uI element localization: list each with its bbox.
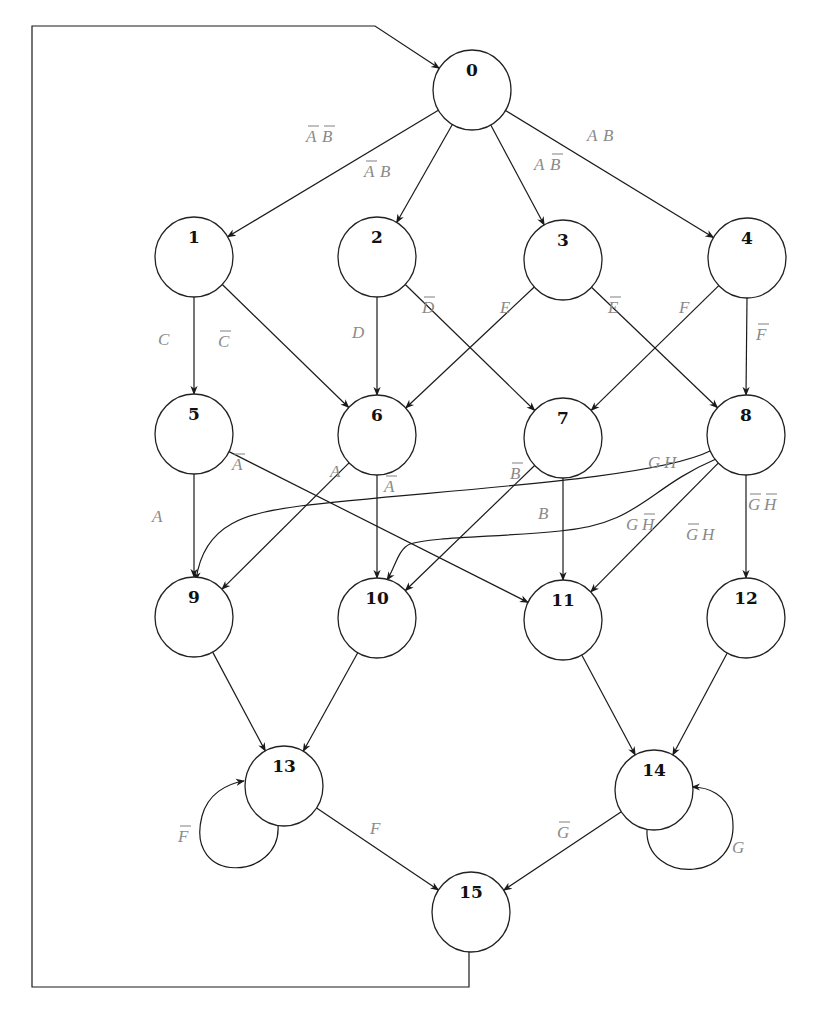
edge-label-4-to-7: F xyxy=(678,298,690,317)
state-label: 10 xyxy=(365,588,389,608)
state-node-4: 4 xyxy=(708,218,786,298)
edge-label-8-to-9: GH xyxy=(648,453,678,472)
state-label: 3 xyxy=(557,230,569,250)
edge-label-term: F xyxy=(755,325,767,344)
state-node-14: 14 xyxy=(615,750,693,830)
state-label: 0 xyxy=(466,60,478,80)
edge-label-term: G xyxy=(626,515,638,534)
edge-label-term: H xyxy=(763,495,778,514)
state-node-3: 3 xyxy=(524,220,602,300)
edge-label-13-to-13: F xyxy=(177,826,191,846)
edge-label-term: B xyxy=(550,155,561,174)
edge-label-term: H xyxy=(641,515,656,534)
edge-10-to-13 xyxy=(303,653,357,751)
edge-label-term: G xyxy=(686,525,698,544)
nodes-layer: 0123456789101112131415 xyxy=(155,50,786,952)
state-label: 5 xyxy=(188,404,200,424)
edge-label-term: H xyxy=(701,525,716,544)
edge-8-to-10 xyxy=(387,459,716,580)
state-label: 12 xyxy=(734,588,758,608)
state-label: 11 xyxy=(551,590,575,610)
state-node-11: 11 xyxy=(524,580,602,660)
edge-label-7-to-10: B xyxy=(510,463,523,483)
edge-15-to-0 xyxy=(32,26,469,987)
state-label: 8 xyxy=(740,405,752,425)
edge-label-term: G xyxy=(748,495,760,514)
edge-label-term: F xyxy=(678,298,690,317)
edge-label-term: G xyxy=(648,453,660,472)
edge-1-to-6 xyxy=(222,285,348,408)
edge-label-term: B xyxy=(510,464,521,483)
state-node-10: 10 xyxy=(338,578,416,658)
edge-label-14-to-15: G xyxy=(557,822,570,842)
state-label: 15 xyxy=(459,882,483,902)
edge-label-term: A xyxy=(151,507,163,526)
state-node-8: 8 xyxy=(707,395,785,475)
edge-label-term: C xyxy=(218,332,230,351)
edge-label-0-to-3: AB xyxy=(533,154,563,174)
edge-label-6-to-9: A xyxy=(329,462,341,481)
edge-label-term: B xyxy=(380,162,391,181)
edge-label-term: D xyxy=(421,298,435,317)
edge-label-8-to-12: GH xyxy=(748,494,778,514)
edge-label-term: F xyxy=(369,819,381,838)
state-label: 6 xyxy=(371,405,383,425)
edge-label-term: C xyxy=(158,330,170,349)
edge-8-to-11 xyxy=(591,463,718,592)
state-node-6: 6 xyxy=(338,395,416,475)
edge-label-7-to-11: B xyxy=(538,504,549,523)
state-diagram: 0123456789101112131415 ABABABABCCDDEEFFA… xyxy=(0,0,827,1011)
edge-12-to-14 xyxy=(673,653,727,755)
state-node-15: 15 xyxy=(432,872,510,952)
edge-label-2-to-7: D xyxy=(421,297,435,317)
edge-label-0-to-2: AB xyxy=(363,161,391,181)
state-node-13: 13 xyxy=(245,746,323,826)
edge-4-to-8 xyxy=(746,298,747,395)
edge-label-0-to-4: AB xyxy=(586,126,614,145)
edge-label-term: A xyxy=(363,162,375,181)
edge-label-1-to-5: C xyxy=(158,330,170,349)
edge-label-3-to-6: E xyxy=(499,298,511,317)
edge-label-term: G xyxy=(732,838,744,857)
edge-label-term: A xyxy=(383,477,395,496)
edge-label-term: B xyxy=(538,504,549,523)
state-label: 13 xyxy=(272,756,296,776)
edge-label-term: B xyxy=(603,126,614,145)
state-node-9: 9 xyxy=(155,577,233,657)
edge-label-term: E xyxy=(607,298,619,317)
edge-labels-layer: ABABABABCCDDEEFFAAAABBGHGHGHGHFFGG xyxy=(151,126,778,857)
edge-label-8-to-10: GH xyxy=(626,514,656,534)
edge-label-5-to-9: A xyxy=(151,507,163,526)
state-node-7: 7 xyxy=(524,398,602,478)
edge-label-term: G xyxy=(557,823,569,842)
state-label: 7 xyxy=(557,408,569,428)
edge-label-term: H xyxy=(663,453,678,472)
edge-label-term: D xyxy=(351,323,365,342)
edge-label-term: E xyxy=(499,298,511,317)
edge-label-2-to-6: D xyxy=(351,323,365,342)
edge-0-to-1 xyxy=(228,110,439,237)
edge-0-to-2 xyxy=(397,125,453,223)
edge-label-term: A xyxy=(533,155,545,174)
state-node-1: 1 xyxy=(155,217,233,297)
edge-0-to-3 xyxy=(491,125,544,225)
edge-label-6-to-10: A xyxy=(383,476,397,496)
edge-label-13-to-15: F xyxy=(369,819,381,838)
edge-9-to-13 xyxy=(213,652,266,751)
edge-11-to-14 xyxy=(582,655,635,755)
edge-label-term: A xyxy=(305,127,317,146)
edge-label-term: A xyxy=(586,126,598,145)
edge-label-term: B xyxy=(322,127,333,146)
edge-label-term: A xyxy=(329,462,341,481)
state-label: 2 xyxy=(371,227,383,247)
edge-label-8-to-11: GH xyxy=(686,524,716,544)
edge-7-to-10 xyxy=(405,465,534,590)
edge-label-4-to-8: F xyxy=(755,324,769,344)
edge-label-5-to-11: A xyxy=(231,454,245,474)
state-node-12: 12 xyxy=(707,578,785,658)
edge-label-term: F xyxy=(177,827,189,846)
state-label: 14 xyxy=(642,760,666,780)
edge-label-1-to-6: C xyxy=(218,331,231,351)
state-node-0: 0 xyxy=(433,50,511,130)
state-node-5: 5 xyxy=(155,394,233,474)
